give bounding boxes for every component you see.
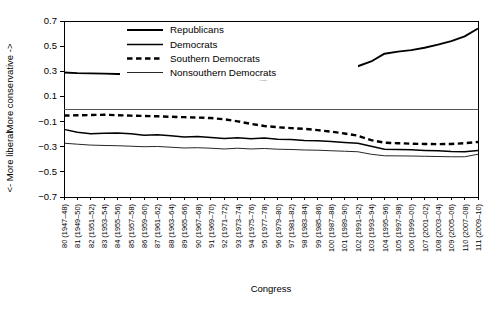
x-axis: 80 (1947–48)81 (1949–50)82 (1951–52)83 (… xyxy=(60,197,483,252)
legend-label-southern-democrats: Southern Democrats xyxy=(170,53,260,64)
x-axis-tick-label: 108 (2003–04) xyxy=(434,204,443,252)
chart-figure: More conservative -> <- More liberal 0.7… xyxy=(0,0,504,311)
y-axis-tick-label: −0.5 xyxy=(38,166,57,177)
chart-legend: RepublicansDemocratsSouthern DemocratsNo… xyxy=(120,24,358,80)
x-axis-tick-label: 96 (1979–80) xyxy=(274,204,283,248)
legend-label-republicans: Republicans xyxy=(170,24,224,35)
y-axis-tick-label: 0.3 xyxy=(44,65,57,76)
x-axis-tick-label: 101 (1989–90) xyxy=(340,204,349,252)
x-axis-tick-label: 81 (1949–50) xyxy=(73,204,82,248)
x-axis-tick-label: 89 (1965–66) xyxy=(180,204,189,248)
x-axis-tick-label: 93 (1973–74) xyxy=(234,204,243,248)
x-axis-tick-label: 110 (2007–08) xyxy=(461,204,470,252)
x-axis-tick-label: 104 (1995–96) xyxy=(381,204,390,252)
y-axis-title-conservative: More conservative -> xyxy=(4,43,15,132)
x-axis-tick-label: 85 (1957–58) xyxy=(127,204,136,248)
x-axis-tick-label: 82 (1951–52) xyxy=(87,204,96,248)
legend-label-nonsouthern-democrats: Nonsouthern Democrats xyxy=(170,67,276,78)
y-axis-tick-label: 0.7 xyxy=(44,15,57,26)
x-axis-tick-label: 105 (1997–98) xyxy=(394,204,403,252)
x-axis-tick-label: 103 (1993–94) xyxy=(367,204,376,252)
x-axis-tick-label: 86 (1959–60) xyxy=(140,204,149,248)
y-axis-tick-label: −0.7 xyxy=(38,191,57,202)
x-axis-tick-label: 80 (1947–48) xyxy=(60,204,69,248)
x-axis-tick-label: 106 (1999–00) xyxy=(407,204,416,252)
y-axis-tick-label: −0.1 xyxy=(38,116,57,127)
x-axis-tick-label: 90 (1967–68) xyxy=(194,204,203,248)
legend-label-democrats: Democrats xyxy=(170,39,217,50)
x-axis-tick-label: 91 (1969–70) xyxy=(207,204,216,248)
y-axis: 0.70.50.30.1−0.1−0.3−0.5−0.7 xyxy=(38,15,64,202)
x-axis-tick-label: 87 (1961–62) xyxy=(153,204,162,248)
series-line-democrats xyxy=(64,129,478,151)
x-axis-tick-label: 84 (1955–56) xyxy=(113,204,122,248)
x-axis-tick-label: 100 (1987–88) xyxy=(327,204,336,252)
x-axis-tick-label: 109 (2005–06) xyxy=(447,204,456,252)
x-axis-tick-label: 83 (1953–54) xyxy=(100,204,109,248)
x-axis-tick-label: 97 (1981–82) xyxy=(287,204,296,248)
x-axis-tick-label: 92 (1971–72) xyxy=(220,204,229,248)
series-line-southern-democrats xyxy=(64,115,478,144)
party-polarization-line-chart: More conservative -> <- More liberal 0.7… xyxy=(0,0,504,311)
y-axis-tick-label: 0.5 xyxy=(44,40,57,51)
y-axis-title-liberal: <- More liberal xyxy=(4,132,15,193)
x-axis-tick-label: 88 (1963–64) xyxy=(167,204,176,248)
x-axis-tick-label: 111 (2009–10) xyxy=(474,204,483,251)
y-axis-tick-label: −0.3 xyxy=(38,141,57,152)
x-axis-title: Congress xyxy=(251,283,292,294)
x-axis-tick-label: 99 (1985–86) xyxy=(314,204,323,248)
x-axis-tick-label: 102 (1991–92) xyxy=(354,204,363,252)
x-axis-tick-label: 95 (1977–78) xyxy=(260,204,269,248)
x-axis-tick-label: 98 (1983–84) xyxy=(300,204,309,248)
x-axis-tick-label: 107 (2001–02) xyxy=(421,204,430,252)
x-axis-tick-label: 94 (1975–76) xyxy=(247,204,256,248)
y-axis-tick-label: 0.1 xyxy=(44,90,57,101)
